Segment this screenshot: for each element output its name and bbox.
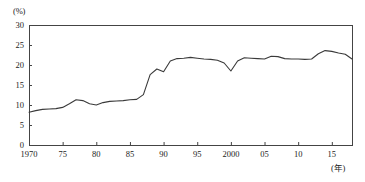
- plot-area: [0, 0, 365, 182]
- data-series-group: [29, 51, 352, 113]
- axis-frame: [30, 26, 353, 146]
- axis-tick-marks: [29, 26, 332, 146]
- line-chart: (%) (年) 051015202530 1970758085909520000…: [0, 0, 365, 182]
